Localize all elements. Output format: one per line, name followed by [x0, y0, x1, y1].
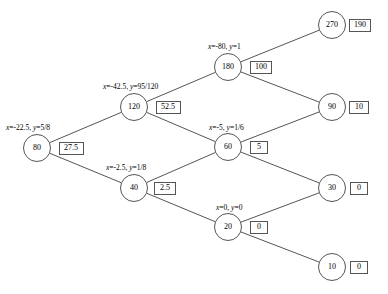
node-value-box[interactable]: 100	[250, 61, 272, 74]
tree-node[interactable]: 120	[120, 93, 148, 121]
tree-node[interactable]: 10	[318, 253, 346, 281]
node-value-box[interactable]: 27.5	[59, 142, 84, 155]
tree-edge	[241, 232, 319, 262]
tree-node[interactable]: 270	[318, 11, 346, 39]
node-value-box[interactable]: 5	[250, 141, 268, 154]
node-equation-label: x=-22.5, y=5/8	[6, 124, 50, 132]
node-value-box[interactable]: 190	[349, 19, 371, 32]
tree-edge	[147, 193, 215, 221]
node-value-box[interactable]: 52.5	[156, 101, 181, 114]
tree-node[interactable]: 40	[120, 174, 148, 202]
tree-node[interactable]: 20	[214, 213, 242, 241]
node-value-box[interactable]: 0	[350, 182, 368, 195]
tree-edge	[50, 112, 121, 142]
tree-node[interactable]: 90	[318, 93, 346, 121]
node-equation-label: x=-2.5, y=1/8	[106, 164, 146, 172]
tree-edge	[241, 30, 319, 62]
tree-node[interactable]: 80	[23, 134, 51, 162]
node-equation-label: x=0, y=0	[216, 204, 242, 212]
tree-edge	[241, 193, 319, 222]
tree-node[interactable]: 30	[318, 174, 346, 202]
node-value-box[interactable]: 0	[250, 221, 268, 234]
tree-node[interactable]: 60	[214, 133, 242, 161]
tree-node[interactable]: 180	[214, 53, 242, 81]
tree-edge	[241, 152, 319, 183]
node-value-box[interactable]: 0	[350, 261, 368, 274]
tree-edge	[241, 72, 319, 102]
node-value-box[interactable]: 2.5	[154, 182, 176, 195]
node-equation-label: x=-42.5, y=95/120	[103, 83, 158, 91]
diagram-canvas: 80120401806020270903010 27.552.52.510050…	[0, 0, 388, 294]
tree-edge	[147, 153, 215, 183]
node-equation-label: x=-5, y=1/6	[209, 124, 244, 132]
tree-edge	[241, 112, 319, 142]
node-value-box[interactable]: 10	[349, 101, 369, 114]
node-equation-label: x=-80, y=1	[208, 43, 241, 51]
tree-edge	[147, 112, 215, 141]
